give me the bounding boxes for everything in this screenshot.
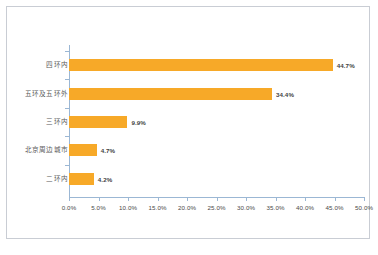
bar-track: 34.4% bbox=[69, 79, 364, 107]
x-axis-tick-label: 0.0% bbox=[62, 204, 77, 211]
x-axis-tick-label: 20.0% bbox=[178, 204, 196, 211]
bar-value-label: 44.7% bbox=[337, 62, 355, 69]
category-label: 五环及五环外 bbox=[0, 90, 68, 98]
bar-series: 四环内44.7%五环及五环外34.4%三环内9.9%北京周边城市4.7%二环内4… bbox=[7, 51, 371, 193]
category-label: 四环内 bbox=[0, 61, 68, 69]
bar[interactable] bbox=[69, 88, 272, 100]
bar-row: 三环内9.9% bbox=[7, 108, 371, 136]
bar-row: 北京周边城市4.7% bbox=[7, 136, 371, 164]
x-axis-tick bbox=[305, 197, 306, 201]
bar-track: 4.7% bbox=[69, 136, 364, 164]
bar[interactable] bbox=[69, 59, 333, 71]
category-label: 三环内 bbox=[0, 118, 68, 126]
bar-value-label: 9.9% bbox=[131, 118, 146, 125]
bar[interactable] bbox=[69, 144, 97, 156]
x-axis-tick-label: 45.0% bbox=[325, 204, 343, 211]
bar-track: 9.9% bbox=[69, 108, 364, 136]
bar-track: 4.2% bbox=[69, 165, 364, 193]
x-axis-tick-label: 40.0% bbox=[296, 204, 314, 211]
x-axis-tick-label: 50.0% bbox=[355, 204, 373, 211]
x-axis-tick-label: 35.0% bbox=[266, 204, 284, 211]
x-axis-tick bbox=[128, 197, 129, 201]
x-axis-tick bbox=[276, 197, 277, 201]
x-axis-tick bbox=[187, 197, 188, 201]
bar[interactable] bbox=[69, 173, 94, 185]
category-label: 二环内 bbox=[0, 175, 68, 183]
x-axis-tick-label: 30.0% bbox=[237, 204, 255, 211]
bar-chart-plot: 0.0%5.0%10.0%15.0%20.0%25.0%30.0%35.0%40… bbox=[7, 7, 371, 240]
x-axis-tick-label: 10.0% bbox=[119, 204, 137, 211]
bar-value-label: 4.2% bbox=[98, 175, 113, 182]
bar-track: 44.7% bbox=[69, 51, 364, 79]
x-axis-tick bbox=[217, 197, 218, 201]
bar-row: 二环内4.2% bbox=[7, 165, 371, 193]
x-axis-tick bbox=[246, 197, 247, 201]
x-axis-tick bbox=[335, 197, 336, 201]
bar-row: 四环内44.7% bbox=[7, 51, 371, 79]
x-axis-tick bbox=[99, 197, 100, 201]
chart-frame: 0.0%5.0%10.0%15.0%20.0%25.0%30.0%35.0%40… bbox=[6, 6, 370, 239]
x-axis-tick-label: 25.0% bbox=[207, 204, 225, 211]
bar-row: 五环及五环外34.4% bbox=[7, 79, 371, 107]
bar[interactable] bbox=[69, 116, 127, 128]
x-axis-tick-label: 5.0% bbox=[91, 204, 106, 211]
bar-value-label: 34.4% bbox=[276, 90, 294, 97]
x-axis-tick bbox=[364, 197, 365, 201]
x-axis-tick bbox=[158, 197, 159, 201]
category-label: 北京周边城市 bbox=[0, 146, 68, 154]
x-axis-tick-label: 15.0% bbox=[148, 204, 166, 211]
x-axis-tick bbox=[69, 197, 70, 201]
bar-value-label: 4.7% bbox=[101, 147, 116, 154]
